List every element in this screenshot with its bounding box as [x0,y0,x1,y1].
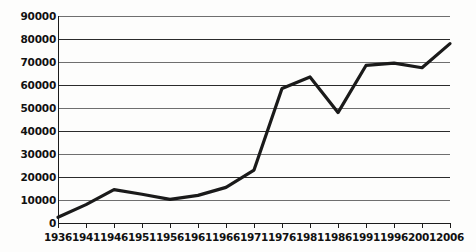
y-axis-line [58,16,59,224]
y-axis-tick-label: 20000 [4,172,56,182]
x-axis-tick [226,223,227,228]
gridline [58,154,450,155]
x-axis-tick [310,223,311,228]
gridline [58,108,450,109]
x-axis-tick [282,223,283,228]
x-axis-tick [198,223,199,228]
y-axis-tick-label: 60000 [4,80,56,90]
y-axis-tick-label: 50000 [4,103,56,113]
gridline [58,39,450,40]
y-axis-tick-label: 80000 [4,34,56,44]
x-axis-tick [86,223,87,228]
x-axis-tick [254,223,255,228]
gridline [58,131,450,132]
x-axis-tick [394,223,395,228]
x-axis-tick-label: 2006 [430,231,470,243]
y-axis-tick-labels: 0100002000030000400005000060000700008000… [0,0,56,252]
y-axis-tick-label: 70000 [4,57,56,67]
x-axis-tick [338,223,339,228]
x-axis-tick [114,223,115,228]
y-axis-tick-label: 10000 [4,195,56,205]
x-axis-tick [142,223,143,228]
y-axis-tick-label: 90000 [4,11,56,21]
gridline [58,85,450,86]
y-axis-tick-label: 40000 [4,126,56,136]
gridline [58,177,450,178]
gridline [58,200,450,201]
gridline [58,62,450,63]
x-axis-tick [170,223,171,228]
x-axis-tick [422,223,423,228]
gridline [58,16,450,17]
y-axis-tick-label: 30000 [4,149,56,159]
y-axis-tick-label: 0 [4,218,56,228]
line-chart: 0100002000030000400005000060000700008000… [0,0,476,252]
x-axis-tick [58,223,59,228]
x-axis-tick [450,223,451,228]
plot-area [58,16,450,223]
x-axis-tick [366,223,367,228]
